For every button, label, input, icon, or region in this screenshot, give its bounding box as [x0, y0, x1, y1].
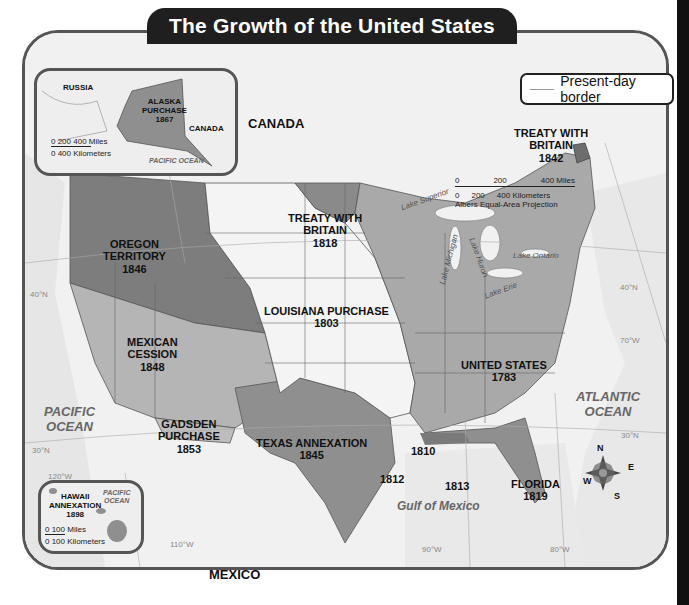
legend-label: Present-day border — [560, 73, 672, 105]
label-pacific-inset: PACIFIC OCEAN — [149, 157, 204, 165]
compass-w: W — [583, 476, 592, 486]
label-atlantic-ocean: ATLANTICOCEAN — [576, 390, 640, 419]
coord-40n-east: 40°N — [620, 283, 638, 292]
label-mexican-cession: MEXICANCESSION1848 — [127, 336, 178, 373]
alaska-inset: RUSSIA ALASKAPURCHASE1867 CANADA 0 200 4… — [34, 68, 238, 176]
compass-s: S — [614, 491, 620, 501]
label-lake-ontario: Lake Ontario — [513, 251, 559, 260]
label-gadsden: GADSDENPURCHASE1853 — [158, 418, 220, 455]
border-line-icon — [530, 89, 554, 90]
label-1810: 1810 — [411, 445, 435, 457]
label-mexico: MEXICO — [209, 568, 260, 583]
compass-n: N — [597, 443, 604, 453]
coord-90w: 90°W — [422, 545, 442, 554]
label-1813: 1813 — [445, 480, 469, 492]
coord-40n-west: 40°N — [30, 290, 48, 299]
label-1812: 1812 — [380, 473, 404, 485]
label-pacific-hawaii: PACIFICOCEAN — [103, 489, 130, 505]
label-louisiana: LOUISIANA PURCHASE1803 — [264, 305, 389, 330]
label-texas: TEXAS ANNEXATION1845 — [256, 437, 367, 462]
legend: Present-day border — [520, 73, 674, 105]
coord-110w: 110°W — [170, 540, 194, 549]
page-edge — [677, 0, 689, 605]
label-canada-inset: CANADA — [189, 125, 224, 134]
label-hawaii: HAWAIIANNEXATION1898 — [49, 493, 101, 520]
label-gulf-of-mexico: Gulf of Mexico — [397, 500, 480, 513]
coord-30n-east: 30°N — [621, 431, 639, 440]
coord-30n-west: 30°N — [32, 446, 50, 455]
scale-bar-hawaii: 0 100 Miles 0 100 Kilometers — [45, 525, 105, 546]
label-alaska: ALASKAPURCHASE1867 — [142, 98, 187, 125]
label-russia: RUSSIA — [63, 84, 93, 93]
label-pacific-ocean: PACIFICOCEAN — [44, 405, 95, 434]
compass-e: E — [628, 462, 634, 472]
label-us-1783: UNITED STATES1783 — [461, 359, 547, 384]
hawaii-inset: HAWAIIANNEXATION1898 PACIFICOCEAN 0 100 … — [38, 480, 144, 554]
label-treaty-1818: TREATY WITHBRITAIN1818 — [288, 212, 362, 249]
map-title: The Growth of the United States — [147, 8, 517, 44]
label-florida: FLORIDA1819 — [511, 478, 560, 503]
label-treaty-1842: TREATY WITHBRITAIN1842 — [514, 127, 588, 164]
label-oregon: OREGONTERRITORY1846 — [103, 238, 166, 275]
scale-bar-alaska: 0 200 400 Miles 0 400 Kilometers — [51, 137, 111, 158]
scale-bar-main: 0200400 Miles 0200400 Kilometers Albers … — [455, 176, 575, 209]
coord-80w: 80°W — [550, 545, 570, 554]
label-canada: CANADA — [248, 117, 304, 132]
coord-70w: 70°W — [620, 336, 640, 345]
